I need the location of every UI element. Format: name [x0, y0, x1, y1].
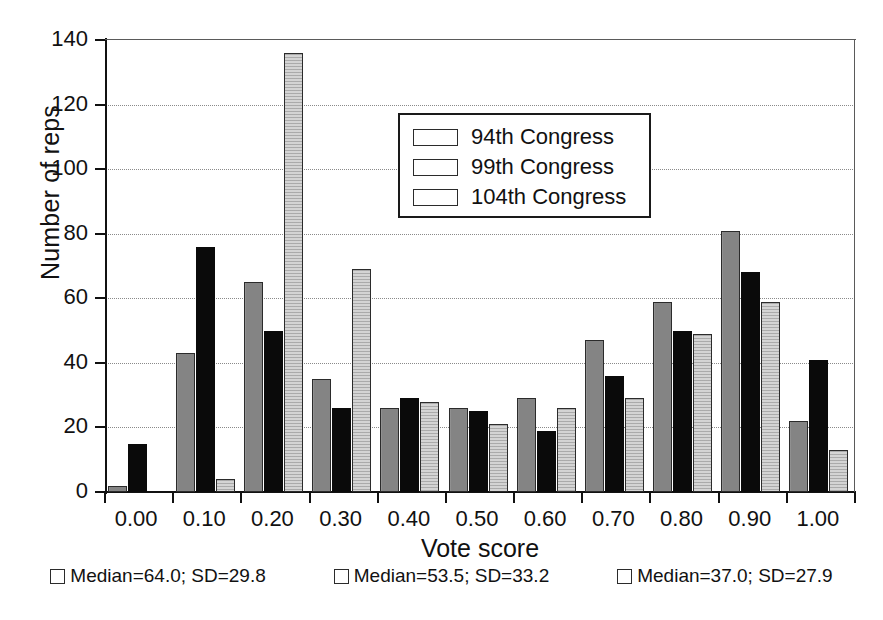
y-axis-tick-label: 80 — [28, 222, 88, 244]
x-axis-tick — [309, 492, 311, 503]
bar-series-0-cat-10 — [789, 421, 808, 492]
series-1-swatch — [413, 159, 458, 176]
bar-series-2-cat-10 — [829, 450, 848, 492]
series-1-swatch-small — [334, 569, 349, 584]
footer-stat-item: Median=53.5; SD=33.2 — [334, 566, 549, 586]
y-axis-tick-label: 60 — [28, 286, 88, 308]
legend-item: 99th Congress — [400, 152, 649, 182]
bar-series-2-cat-3 — [352, 269, 371, 492]
legend-item: 104th Congress — [400, 182, 649, 212]
bar-series-1-cat-5 — [469, 411, 488, 492]
x-axis-tick — [172, 492, 174, 503]
bar-series-1-cat-9 — [741, 272, 760, 492]
series-2-swatch — [413, 189, 458, 206]
footer-stats: Median=64.0; SD=29.8 Median=53.5; SD=33.… — [0, 566, 883, 586]
bar-series-2-cat-4 — [420, 402, 439, 492]
bar-series-0-cat-8 — [653, 302, 672, 492]
bar-series-0-cat-6 — [517, 398, 536, 492]
x-axis-tick — [854, 492, 856, 503]
x-axis-tick — [104, 492, 106, 503]
legend-item-label: 94th Congress — [471, 126, 614, 148]
bar-series-0-cat-7 — [585, 340, 604, 492]
y-axis-tick-label: 0 — [28, 480, 88, 502]
bar-series-0-cat-3 — [312, 379, 331, 492]
legend-item: 94th Congress — [400, 122, 649, 152]
bar-series-2-cat-1 — [216, 479, 235, 492]
y-axis-tick-label: 40 — [28, 351, 88, 373]
x-axis-tick-label: 1.00 — [773, 507, 863, 531]
bar-series-1-cat-1 — [196, 247, 215, 492]
footer-stat-label: Median=64.0; SD=29.8 — [70, 566, 265, 586]
bar-series-2-cat-5 — [489, 424, 508, 492]
bar-series-1-cat-10 — [809, 360, 828, 492]
y-axis-tick-label: 140 — [28, 28, 88, 50]
y-axis-tick-label: 20 — [28, 415, 88, 437]
legend-item-label: 99th Congress — [471, 156, 614, 178]
y-axis-tick-label: 100 — [28, 157, 88, 179]
x-axis-title: Vote score — [105, 534, 855, 563]
series-0-swatch-small — [50, 569, 65, 584]
x-axis-tick — [513, 492, 515, 503]
series-2-swatch-small — [617, 569, 632, 584]
legend-item-label: 104th Congress — [471, 186, 626, 208]
bar-series-2-cat-2 — [284, 53, 303, 492]
x-axis-tick — [445, 492, 447, 503]
bar-series-1-cat-7 — [605, 376, 624, 492]
bar-series-1-cat-4 — [400, 398, 419, 492]
bar-series-2-cat-8 — [693, 334, 712, 492]
footer-stat-item: Median=64.0; SD=29.8 — [50, 566, 265, 586]
bar-series-2-cat-7 — [625, 398, 644, 492]
bar-series-1-cat-3 — [332, 408, 351, 492]
y-axis-title: Number of reps — [36, 0, 65, 393]
x-axis-tick — [377, 492, 379, 503]
footer-stat-label: Median=37.0; SD=27.9 — [637, 566, 832, 586]
bar-series-0-cat-9 — [721, 231, 740, 493]
footer-stat-item: Median=37.0; SD=27.9 — [617, 566, 832, 586]
bar-series-2-cat-6 — [557, 408, 576, 492]
bar-chart-figure: Number of reps 020406080100120140 0.000.… — [0, 0, 883, 620]
bar-series-0-cat-5 — [449, 408, 468, 492]
y-axis-tick-label: 120 — [28, 93, 88, 115]
bar-series-1-cat-0 — [128, 444, 147, 492]
x-axis-tick — [649, 492, 651, 503]
bar-series-0-cat-4 — [380, 408, 399, 492]
bar-series-1-cat-8 — [673, 331, 692, 492]
bar-series-1-cat-6 — [537, 431, 556, 492]
bar-series-0-cat-2 — [244, 282, 263, 492]
bar-series-0-cat-0 — [108, 486, 127, 492]
bar-series-1-cat-2 — [264, 331, 283, 492]
footer-stat-label: Median=53.5; SD=33.2 — [354, 566, 549, 586]
x-axis-tick — [718, 492, 720, 503]
bar-series-0-cat-1 — [176, 353, 195, 492]
x-axis-tick — [240, 492, 242, 503]
chart-legend: 94th Congress 99th Congress 104th Congre… — [398, 113, 651, 218]
series-0-swatch — [413, 129, 458, 146]
plot-area — [105, 40, 855, 492]
x-axis-tick — [581, 492, 583, 503]
x-axis-tick — [786, 492, 788, 503]
bar-series-2-cat-9 — [761, 302, 780, 492]
